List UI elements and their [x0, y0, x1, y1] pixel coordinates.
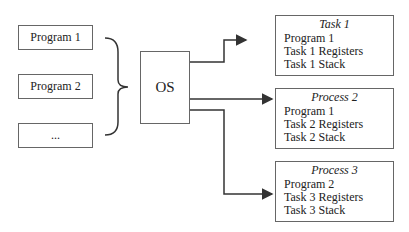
arrow-to-process-3 — [190, 110, 272, 194]
arrow-to-task-1 — [190, 40, 246, 62]
brace — [105, 38, 128, 135]
process-3-box: Process 3 Program 2 Task 3 Registers Tas… — [275, 161, 394, 222]
task-line: Task 1 Stack — [284, 58, 393, 71]
os-box: OS — [140, 51, 190, 124]
program-2-box: Program 2 — [18, 74, 93, 99]
task-line: Task 3 Stack — [284, 204, 393, 217]
os-label: OS — [155, 79, 174, 96]
task-title: Process 3 — [276, 164, 393, 177]
task-title: Process 2 — [276, 91, 393, 104]
program-more-box: ... — [18, 123, 93, 148]
program-1-box: Program 1 — [18, 25, 93, 50]
program-label: Program 1 — [30, 30, 80, 45]
process-2-box: Process 2 Program 1 Task 2 Registers Tas… — [275, 88, 394, 149]
task-1-box: Task 1 Program 1 Task 1 Registers Task 1… — [275, 15, 394, 76]
program-label: ... — [51, 128, 60, 143]
task-title: Task 1 — [276, 18, 393, 31]
program-label: Program 2 — [30, 79, 80, 94]
task-line: Task 2 Stack — [284, 131, 393, 144]
